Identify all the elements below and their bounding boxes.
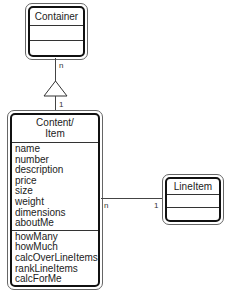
multiplicity-container-end: n	[59, 62, 63, 70]
lineitem-class: LineItem	[162, 174, 224, 225]
lineitem-class-body: LineItem	[165, 177, 221, 222]
attribute: name	[15, 144, 98, 155]
multiplicity-content-end-top: 1	[59, 101, 63, 109]
lineitem-class-name: LineItem	[167, 179, 219, 195]
content-item-class-body: Content/ Item name number description pr…	[10, 113, 100, 287]
content-item-operations: howMany howMuch calcOverLineItems rankLi…	[12, 231, 98, 287]
operation: rateMe	[15, 285, 98, 287]
multiplicity-content-end-right: n	[104, 202, 108, 210]
lineitem-attributes-section	[167, 195, 219, 208]
attribute: weight	[15, 197, 98, 208]
content-item-name-line1: Content/	[12, 117, 98, 128]
lineitem-operations-section	[167, 208, 219, 220]
operation: calcOverLineItems	[15, 253, 98, 264]
association-line	[101, 198, 162, 199]
content-item-attributes: name number description price size weigh…	[12, 143, 98, 231]
multiplicity-lineitem-end: 1	[154, 202, 158, 210]
attribute: aboutMe	[15, 218, 98, 229]
content-item-class-name: Content/ Item	[12, 115, 98, 143]
content-item-name-line2: Item	[12, 128, 98, 139]
content-item-class: Content/ Item name number description pr…	[7, 110, 103, 290]
